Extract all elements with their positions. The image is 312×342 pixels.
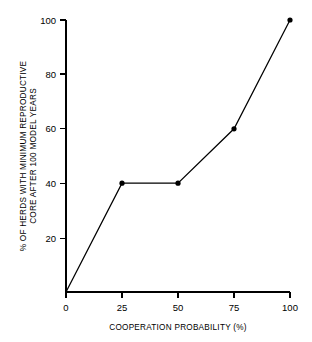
y-tick-label-20: 20	[45, 233, 56, 244]
data-point-25-40	[119, 181, 124, 186]
line-chart: 20 40 60 80 100 0 25 50 75 100 COOPERATI…	[0, 0, 312, 342]
y-tick-label-60: 60	[45, 123, 56, 134]
data-point-75-60	[231, 126, 236, 131]
y-axis-title-line-2: CORE AFTER 100 MODEL YEARS	[29, 88, 38, 224]
y-tick-label-40: 40	[45, 178, 56, 189]
y-axis-title-line-1: % OF HERDS WITH MINIMUM REPRODUCTIVE	[19, 60, 28, 251]
x-axis-title: COOPERATION PROBABILITY (%)	[109, 323, 246, 332]
data-point-100-100	[287, 17, 292, 22]
chart-figure: 20 40 60 80 100 0 25 50 75 100 COOPERATI…	[0, 0, 312, 342]
x-tick-label-100: 100	[282, 302, 298, 313]
y-tick-label-100: 100	[40, 15, 56, 26]
x-tick-label-75: 75	[229, 302, 240, 313]
chart-background	[0, 0, 312, 342]
data-point-50-40	[175, 181, 180, 186]
x-tick-label-0: 0	[63, 302, 68, 313]
y-tick-label-80: 80	[45, 69, 56, 80]
x-tick-label-50: 50	[173, 302, 184, 313]
x-tick-label-25: 25	[117, 302, 128, 313]
